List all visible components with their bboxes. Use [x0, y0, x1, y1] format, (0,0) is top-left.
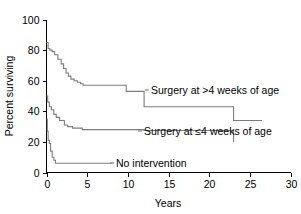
curve-surgery-at-4-weeks-of-age [47, 42, 263, 120]
x-tick-label-20: 20 [204, 178, 216, 190]
y-tick-label-40: 40 [28, 105, 40, 117]
series-label-surgery-le4: Surgery at ≤4 weeks of age [144, 125, 272, 137]
x-tick-label-5: 5 [85, 178, 91, 190]
x-tick-label-15: 15 [164, 178, 176, 190]
y-tick-label-0: 0 [34, 167, 40, 179]
survival-chart-figure: 020406080100 Percent surviving 051015202… [0, 0, 301, 214]
x-axis-title: Years [155, 197, 181, 209]
y-axis-ticks [43, 21, 47, 174]
series-label-surgery-gt4: Surgery at >4 weeks of age [151, 84, 279, 96]
x-tick-label-0: 0 [45, 178, 51, 190]
y-tick-label-100: 100 [22, 14, 40, 26]
series-label-no-intervention: No intervention [116, 157, 187, 169]
x-tick-label-25: 25 [245, 178, 257, 190]
y-axis-tick-labels: 020406080100 [22, 14, 40, 179]
x-tick-label-30: 30 [286, 178, 298, 190]
survival-chart-svg: 020406080100 Percent surviving 051015202… [0, 0, 301, 214]
x-axis-ticks [48, 173, 292, 177]
y-tick-label-20: 20 [28, 136, 40, 148]
x-tick-label-10: 10 [123, 178, 135, 190]
y-axis-title: Percent surviving [3, 56, 15, 137]
y-tick-label-80: 80 [28, 44, 40, 56]
x-axis-group: 051015202530 Years [45, 173, 298, 210]
y-axis-group: 020406080100 Percent surviving [3, 14, 47, 179]
x-axis-tick-labels: 051015202530 [45, 178, 298, 190]
y-tick-label-60: 60 [28, 75, 40, 87]
series-labels-group: Surgery at >4 weeks of age Surgery at ≤4… [116, 84, 279, 169]
survival-curves-group [47, 42, 263, 163]
curve-no-intervention [47, 119, 112, 163]
